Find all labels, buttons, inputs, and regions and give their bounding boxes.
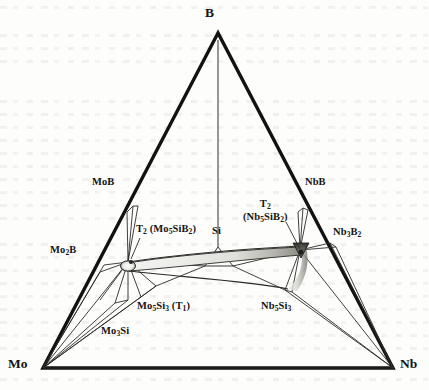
- ternary-diagram-canvas: [0, 0, 429, 390]
- mo2b-text-mo: Mo: [50, 244, 65, 255]
- mo3si-mo: Mo: [101, 325, 116, 336]
- phase-label-nbb: NbB: [305, 176, 326, 187]
- t2mo-sib: SiB: [173, 223, 189, 234]
- phase-label-t2-mo5sib2: T2 (Mo5SiB2): [136, 223, 196, 236]
- mo5si3-si: Si: [156, 300, 165, 311]
- phase-label-mo3si: Mo3Si: [101, 325, 129, 338]
- phase-label-mo5si3-t1: Mo5Si3 (T1): [137, 300, 190, 313]
- mo2b-text-b: B: [69, 244, 76, 255]
- t2-solid-solution-band: [128, 246, 308, 291]
- vertex-label-mo: Mo: [8, 357, 28, 371]
- mo5si3-mo: Mo: [137, 300, 152, 311]
- t2nb-t: T: [260, 198, 267, 209]
- phase-label-mob: MoB: [92, 176, 114, 187]
- phase-diagram-figure: B Mo Nb MoB NbB Mo2B Nb3B2 T2 (Mo5SiB2) …: [0, 0, 429, 390]
- mo5si3-t1open: (T: [169, 300, 182, 311]
- t2nb-sib: SiB: [264, 211, 280, 222]
- t2nb-sub2: 2: [267, 202, 271, 211]
- phase-label-si: Si: [212, 225, 221, 236]
- nb5si3-sub3: 3: [287, 304, 291, 313]
- t2nb-line1: T2: [243, 198, 288, 211]
- t2nb-open: (Nb: [243, 211, 260, 222]
- mo5si3-t1close: ): [186, 300, 190, 311]
- vertex-label-nb: Nb: [400, 357, 417, 371]
- nb3b2-text-b: B: [351, 226, 358, 237]
- phase-label-nb5si3: Nb5Si3: [261, 300, 291, 313]
- t2mo-open: (Mo: [147, 223, 169, 234]
- t2nb-close: ): [284, 211, 288, 222]
- mo3si-si: Si: [120, 325, 129, 336]
- t2nb-line2: (Nb5SiB2): [243, 211, 288, 224]
- phase-label-t2-nb5sib2: T2 (Nb5SiB2): [243, 198, 288, 223]
- nb3b2-sub-2: 2: [358, 230, 362, 239]
- nb5si3-nb: Nb: [261, 300, 275, 311]
- vertex-label-b: B: [205, 6, 214, 20]
- nb3b2-text-nb: Nb: [333, 226, 347, 237]
- phase-label-mo2b: Mo2B: [50, 244, 76, 257]
- t2mo-close: ): [192, 223, 196, 234]
- phase-label-nb3b2: Nb3B2: [333, 226, 361, 239]
